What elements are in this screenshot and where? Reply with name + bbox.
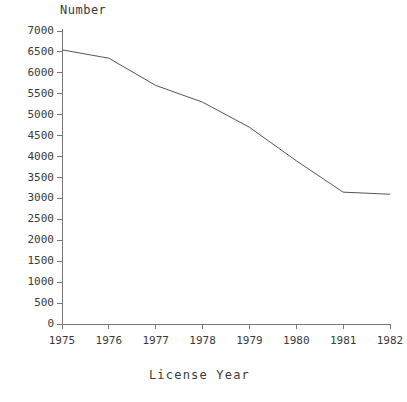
x-axis-tick-label: 1975 — [38, 334, 86, 347]
y-axis-tick-label: 6500 — [8, 45, 54, 58]
x-axis-tick-label: 1978 — [179, 334, 227, 347]
x-axis-tick-label: 1980 — [272, 334, 320, 347]
y-axis-tick-label: 5000 — [8, 108, 54, 121]
x-axis-tick-label: 1977 — [132, 334, 180, 347]
chart-axes — [57, 29, 390, 329]
x-axis-tick-label: 1982 — [366, 334, 407, 347]
y-axis-tick-label: 1500 — [8, 254, 54, 267]
y-axis-tick-label: 2000 — [8, 233, 54, 246]
x-axis-title: License Year — [0, 368, 399, 382]
data-line — [62, 50, 390, 194]
y-axis-tick-label: 4500 — [8, 129, 54, 142]
y-axis-tick-label: 6000 — [8, 66, 54, 79]
x-axis-tick-label: 1981 — [319, 334, 367, 347]
y-axis-tick-label: 500 — [8, 296, 54, 309]
chart-series-line — [62, 50, 390, 194]
x-axis-tick-label: 1976 — [85, 334, 133, 347]
y-axis-tick-label: 7000 — [8, 24, 54, 37]
y-axis-tick-label: 0 — [8, 317, 54, 330]
x-axis-tick-label: 1979 — [225, 334, 273, 347]
y-axis-tick-label: 3500 — [8, 171, 54, 184]
y-axis-tick-label: 1000 — [8, 275, 54, 288]
y-axis-tick-label: 3000 — [8, 191, 54, 204]
y-axis-tick-label: 5500 — [8, 87, 54, 100]
y-axis-tick-label: 4000 — [8, 150, 54, 163]
y-axis-tick-label: 2500 — [8, 212, 54, 225]
